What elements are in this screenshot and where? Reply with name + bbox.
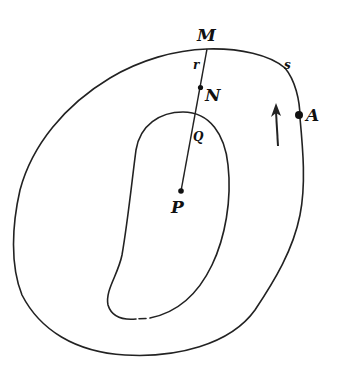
outer-curve [14,49,304,356]
diagram-canvas: M r N Q P s A [0,0,344,365]
label-a: A [306,107,319,124]
label-q: Q [193,131,203,143]
label-p: P [171,199,184,216]
label-s: s [284,59,291,71]
label-m: M [197,27,216,44]
label-r: r [193,59,199,71]
label-n: N [205,87,221,104]
direction-arrow-icon [271,103,281,146]
point-a [295,111,303,119]
point-p [178,188,184,194]
point-n [198,85,203,90]
diagram-svg [0,0,344,365]
inner-curve [108,112,230,319]
